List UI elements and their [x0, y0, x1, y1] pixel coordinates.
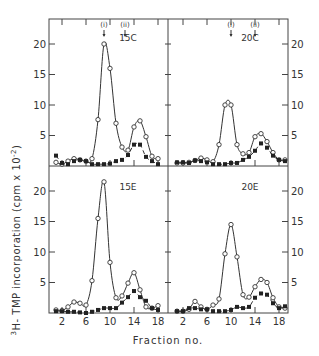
y-tick-label: 20 — [291, 39, 304, 50]
open-point — [54, 160, 58, 164]
filled-point — [114, 159, 118, 163]
filled-point — [126, 295, 130, 299]
x-tick-label: 18 — [152, 316, 165, 327]
filled-point — [241, 306, 245, 310]
open-point — [235, 142, 239, 146]
y-tick-label: 15 — [291, 216, 304, 227]
filled-point — [217, 162, 221, 166]
open-point — [132, 125, 136, 129]
open-point — [259, 131, 263, 135]
open-point — [253, 285, 257, 289]
filled-point — [120, 301, 124, 305]
open-point — [90, 278, 94, 282]
filled-point — [175, 309, 179, 313]
y-tick-label: 10 — [33, 247, 46, 258]
open-point — [193, 299, 197, 303]
filled-point — [271, 154, 275, 158]
filled-point — [229, 308, 233, 312]
open-point — [229, 222, 233, 226]
open-point — [108, 260, 112, 264]
open-point — [156, 156, 160, 160]
y-tick-label: 5 — [40, 130, 46, 141]
filled-point — [60, 161, 64, 165]
x-tick-label: 6 — [204, 316, 210, 327]
solid-curve — [177, 100, 285, 163]
filled-point — [144, 299, 148, 303]
filled-point — [150, 159, 154, 163]
filled-point — [54, 154, 58, 158]
filled-point — [150, 306, 154, 310]
panel-15c: 15C(i)(ii) — [54, 21, 160, 166]
open-point — [229, 103, 233, 107]
open-point — [247, 295, 251, 299]
filled-point — [156, 162, 160, 166]
filled-point — [217, 309, 221, 313]
filled-point — [265, 146, 269, 150]
open-point — [138, 288, 142, 292]
open-point — [96, 216, 100, 220]
filled-point — [259, 141, 263, 145]
solid-curve — [56, 42, 158, 164]
y-tick-label: 20 — [33, 186, 46, 197]
filled-point — [96, 162, 100, 166]
panel-label: 20E — [241, 182, 258, 192]
filled-point — [259, 291, 263, 295]
filled-point — [66, 310, 70, 314]
panel-label: 15C — [119, 33, 137, 43]
open-point — [114, 296, 118, 300]
x-tick-label: 2 — [180, 316, 186, 327]
panel-20e: 20E — [175, 182, 287, 313]
y-tick-label: 5 — [291, 277, 297, 288]
filled-point — [187, 306, 191, 310]
filled-point — [102, 306, 106, 310]
peak-marker-label: (ii) — [250, 21, 260, 29]
filled-point — [156, 308, 160, 312]
open-point — [265, 139, 269, 143]
filled-point — [90, 310, 94, 314]
filled-point — [247, 305, 251, 309]
y-tick-label: 15 — [33, 216, 46, 227]
peak-marker-label: (ii) — [120, 21, 130, 29]
filled-point — [144, 155, 148, 159]
filled-point — [199, 159, 203, 163]
filled-point — [223, 309, 227, 313]
panels: 15C(i)(ii)20C(i)(ii)15E20E — [54, 21, 287, 315]
panel-15e: 15E — [54, 180, 160, 315]
open-point — [223, 103, 227, 107]
open-point — [78, 301, 82, 305]
x-tick-label: 14 — [249, 316, 262, 327]
filled-point — [120, 158, 124, 162]
filled-point — [138, 143, 142, 147]
open-point — [138, 119, 142, 123]
filled-point — [181, 309, 185, 313]
open-point — [72, 300, 76, 304]
filled-point — [102, 162, 106, 166]
y-tick-label: 10 — [291, 100, 304, 111]
filled-point — [229, 161, 233, 165]
x-tick-label: 2 — [59, 316, 65, 327]
filled-point — [223, 162, 227, 166]
open-point — [126, 148, 130, 152]
filled-point — [90, 162, 94, 166]
solid-curve — [177, 225, 285, 312]
filled-point — [235, 305, 239, 309]
open-point — [132, 271, 136, 275]
y-tick-label: 10 — [33, 100, 46, 111]
y-tick-label: 5 — [291, 130, 297, 141]
filled-point — [132, 143, 136, 147]
filled-point — [205, 160, 209, 164]
y-tick-label: 20 — [33, 39, 46, 50]
open-point — [84, 303, 88, 307]
filled-point — [211, 309, 215, 313]
filled-point — [265, 293, 269, 297]
open-point — [271, 296, 275, 300]
x-tick-label: 10 — [225, 316, 238, 327]
open-point — [156, 303, 160, 307]
filled-point — [108, 306, 112, 310]
filled-point — [108, 162, 112, 166]
filled-point — [199, 307, 203, 311]
open-point — [102, 42, 106, 46]
filled-point — [138, 295, 142, 299]
filled-point — [175, 160, 179, 164]
peak-marker-label: (i) — [227, 21, 235, 29]
